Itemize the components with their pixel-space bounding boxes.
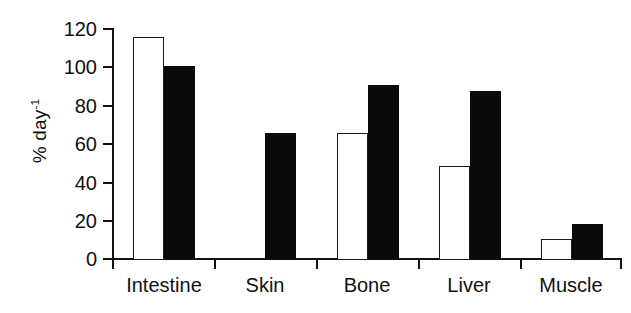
y-tick-40: [103, 182, 112, 184]
x-tick-3: [418, 260, 420, 269]
y-tick-20: [103, 220, 112, 222]
y-tick-label-40: 40: [75, 173, 97, 193]
y-tick-label-80: 80: [75, 96, 97, 116]
bar-open-muscle: [541, 239, 572, 260]
x-tick-2: [316, 260, 318, 269]
y-tick-label-0: 0: [86, 249, 97, 269]
bar-chart-figure: % day-1 120 100 80 60 40 20 0 Intestine …: [0, 0, 631, 313]
y-tick-80: [103, 105, 112, 107]
x-axis-label-skin: Skin: [209, 274, 321, 296]
x-axis-label-muscle: Muscle: [515, 274, 627, 296]
y-tick-label-60: 60: [75, 134, 97, 154]
x-tick-1: [214, 260, 216, 269]
y-tick-label-100: 100: [64, 57, 97, 77]
bar-filled-skin: [265, 133, 296, 260]
bar-open-bone: [337, 133, 368, 260]
y-tick-120: [103, 28, 112, 30]
x-tick-4: [520, 260, 522, 269]
y-axis-line: [112, 28, 114, 260]
y-tick-label-20: 20: [75, 211, 97, 231]
bar-open-intestine: [133, 37, 164, 260]
y-tick-label-120: 120: [64, 19, 97, 39]
y-tick-100: [103, 66, 112, 68]
bar-filled-bone: [368, 85, 399, 260]
y-tick-60: [103, 143, 112, 145]
bar-filled-muscle: [572, 224, 603, 260]
x-axis-label-liver: Liver: [413, 274, 525, 296]
x-axis-label-bone: Bone: [311, 274, 423, 296]
bar-open-liver: [439, 166, 470, 260]
x-tick-0: [112, 260, 114, 269]
y-axis-title-exponent: -1: [28, 99, 41, 110]
bar-filled-intestine: [164, 66, 195, 260]
bar-filled-liver: [470, 91, 501, 260]
y-axis-title-base: % day: [29, 110, 50, 164]
y-tick-0: [103, 258, 112, 260]
y-axis-title: % day-1: [29, 61, 51, 201]
x-tick-5: [620, 260, 622, 269]
